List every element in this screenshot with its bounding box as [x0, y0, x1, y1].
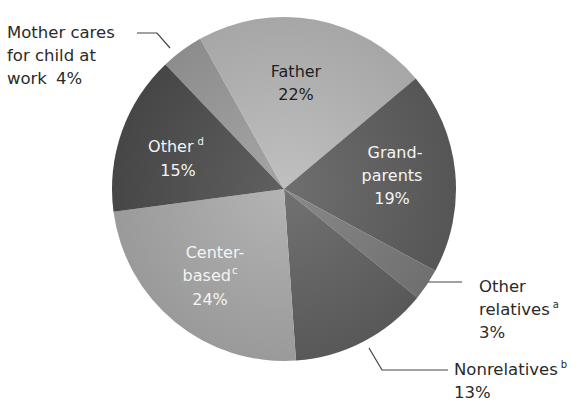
nonrelatives-leader-line [369, 348, 448, 370]
label-other-relatives: Other relativesa 3% [479, 277, 559, 342]
label-mother: Mother cares for child at work4% [7, 23, 115, 88]
nonrelatives-label: Nonrelativesb [454, 359, 567, 379]
center-based-label-line1: Center- [186, 243, 245, 262]
grandparents-label-line1: Grand- [368, 143, 423, 162]
other-pct: 15% [160, 161, 196, 180]
center-based-pct: 24% [192, 290, 228, 309]
pie-chart: Mother cares for child at work4% Other r… [0, 0, 587, 403]
father-pct: 22% [278, 85, 314, 104]
nonrelatives-pct: 13% [454, 383, 491, 402]
other-relatives-label-line1: Other [479, 277, 526, 296]
mother-label-line2: for child at [7, 46, 96, 65]
center-based-label-line2: basedc [183, 265, 238, 285]
grandparents-pct: 19% [374, 189, 410, 208]
label-nonrelatives: Nonrelativesb 13% [454, 359, 567, 402]
mother-leader-line [137, 33, 170, 48]
father-label: Father [271, 62, 322, 81]
mother-label-line3: work4% [7, 69, 82, 88]
mother-label-line1: Mother cares [7, 23, 115, 42]
grandparents-label-line2: parents [362, 166, 423, 185]
other-relatives-label-line2: relativesa [479, 299, 559, 319]
other-relatives-pct: 3% [479, 323, 505, 342]
